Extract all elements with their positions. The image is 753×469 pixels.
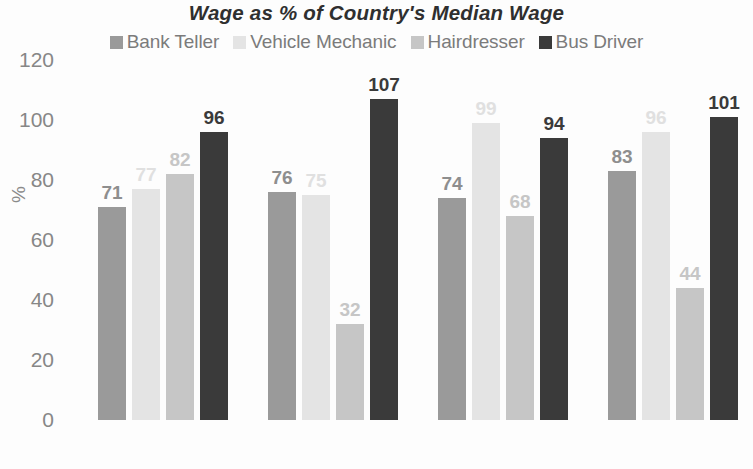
bar-group-us: 74996894 — [438, 60, 574, 420]
legend-swatch-icon — [411, 36, 424, 49]
bar-value-label: 94 — [543, 113, 564, 135]
bar-rect — [166, 174, 194, 420]
y-axis-tick-label: 0 — [0, 408, 54, 432]
bar-value-label: 96 — [645, 107, 666, 129]
bar-rect — [302, 195, 330, 420]
bar-group-uk: 839644101 — [608, 60, 744, 420]
bar-rect — [268, 192, 296, 420]
bar-rect — [200, 132, 228, 420]
bar-rect — [370, 99, 398, 420]
legend-item-vehicle-mechanic[interactable]: Vehicle Mechanic — [233, 31, 396, 53]
bar-value-label: 32 — [339, 299, 360, 321]
chart-title: Wage as % of Country's Median Wage — [0, 1, 753, 25]
bar-australia-bus-driver[interactable]: 107 — [370, 99, 398, 420]
bar-rect — [642, 132, 670, 420]
legend-swatch-icon — [539, 36, 552, 49]
y-axis-title: % — [8, 186, 30, 203]
bar-us-bank-teller[interactable]: 74 — [438, 198, 466, 420]
bar-us-vehicle-mechanic[interactable]: 99 — [472, 123, 500, 420]
legend-swatch-icon — [233, 36, 246, 49]
bar-rect — [472, 123, 500, 420]
plot-area: 02040608010012071778296Singapore76753210… — [62, 60, 753, 420]
bar-singapore-bus-driver[interactable]: 96 — [200, 132, 228, 420]
legend-label: Bank Teller — [127, 31, 220, 53]
bar-rect — [438, 198, 466, 420]
bar-chart: Wage as % of Country's Median Wage Bank … — [0, 0, 753, 469]
bar-australia-bank-teller[interactable]: 76 — [268, 192, 296, 420]
bar-value-label: 77 — [135, 164, 156, 186]
bar-value-label: 96 — [203, 107, 224, 129]
bar-rect — [98, 207, 126, 420]
y-axis-tick-label: 100 — [0, 108, 54, 132]
legend-swatch-icon — [110, 36, 123, 49]
bar-value-label: 75 — [305, 170, 326, 192]
bar-uk-vehicle-mechanic[interactable]: 96 — [642, 132, 670, 420]
bar-value-label: 82 — [169, 149, 190, 171]
bar-australia-hairdresser[interactable]: 32 — [336, 324, 364, 420]
bar-value-label: 71 — [101, 182, 122, 204]
legend-item-bus-driver[interactable]: Bus Driver — [539, 31, 644, 53]
bar-group-australia: 767532107 — [268, 60, 404, 420]
chart-legend: Bank TellerVehicle MechanicHairdresserBu… — [0, 31, 753, 53]
bar-uk-hairdresser[interactable]: 44 — [676, 288, 704, 420]
legend-item-bank-teller[interactable]: Bank Teller — [110, 31, 220, 53]
bar-value-label: 83 — [611, 146, 632, 168]
bar-rect — [710, 117, 738, 420]
bar-australia-vehicle-mechanic[interactable]: 75 — [302, 195, 330, 420]
legend-item-hairdresser[interactable]: Hairdresser — [411, 31, 525, 53]
bar-rect — [132, 189, 160, 420]
legend-label: Vehicle Mechanic — [250, 31, 396, 53]
bar-rect — [608, 171, 636, 420]
bar-singapore-bank-teller[interactable]: 71 — [98, 207, 126, 420]
bar-rect — [540, 138, 568, 420]
bar-value-label: 44 — [679, 263, 700, 285]
bar-value-label: 107 — [368, 74, 400, 96]
legend-label: Bus Driver — [556, 31, 644, 53]
bar-uk-bank-teller[interactable]: 83 — [608, 171, 636, 420]
y-axis-tick-label: 120 — [0, 48, 54, 72]
bar-singapore-vehicle-mechanic[interactable]: 77 — [132, 189, 160, 420]
bar-value-label: 99 — [475, 98, 496, 120]
bar-rect — [506, 216, 534, 420]
bar-rect — [336, 324, 364, 420]
bar-singapore-hairdresser[interactable]: 82 — [166, 174, 194, 420]
bar-value-label: 76 — [271, 167, 292, 189]
bar-value-label: 68 — [509, 191, 530, 213]
bar-value-label: 74 — [441, 173, 462, 195]
y-axis-tick-label: 40 — [0, 288, 54, 312]
bar-group-singapore: 71778296 — [98, 60, 234, 420]
legend-label: Hairdresser — [428, 31, 525, 53]
bar-us-hairdresser[interactable]: 68 — [506, 216, 534, 420]
bar-rect — [676, 288, 704, 420]
bar-uk-bus-driver[interactable]: 101 — [710, 117, 738, 420]
y-axis-tick-label: 20 — [0, 348, 54, 372]
bar-value-label: 101 — [708, 92, 740, 114]
y-axis-tick-label: 60 — [0, 228, 54, 252]
bar-us-bus-driver[interactable]: 94 — [540, 138, 568, 420]
